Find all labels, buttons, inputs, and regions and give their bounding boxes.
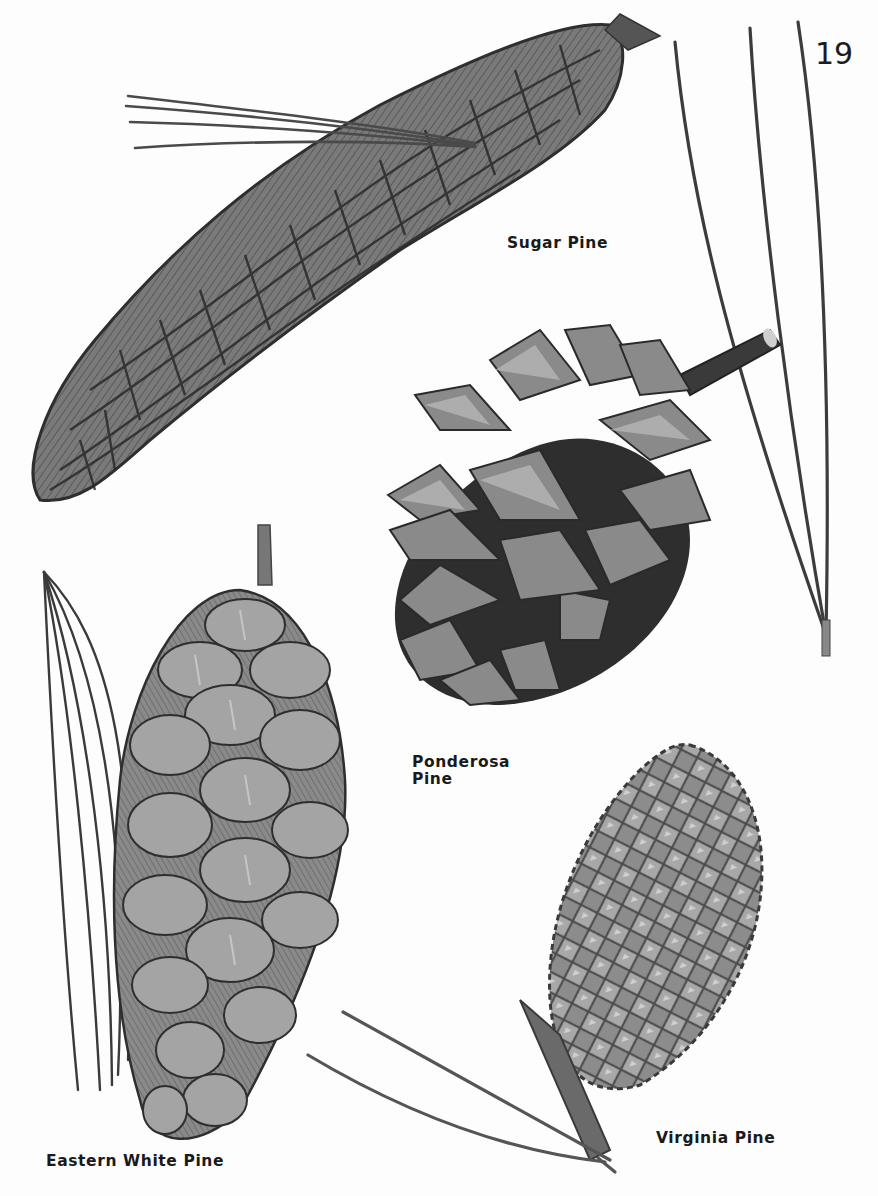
sugar-pine-cone: [33, 14, 660, 501]
label-virginia-pine: Virginia Pine: [656, 1130, 775, 1147]
pine-cone-illustrations: [0, 0, 878, 1196]
label-ponderosa-line1: Ponderosa: [412, 753, 510, 771]
label-sugar-pine: Sugar Pine: [507, 235, 608, 252]
virginia-pine-cone: [308, 744, 762, 1172]
ponderosa-pine-cone: [388, 325, 780, 705]
label-ponderosa-pine: Ponderosa Pine: [412, 754, 542, 788]
label-ponderosa-line2: Pine: [412, 770, 453, 788]
label-eastern-white-pine: Eastern White Pine: [46, 1153, 224, 1170]
eastern-white-pine-cone: [114, 525, 348, 1139]
page-number: 19: [815, 36, 853, 71]
book-page: 19 Sugar Pine Ponderosa Pine Eastern Whi…: [0, 0, 878, 1196]
